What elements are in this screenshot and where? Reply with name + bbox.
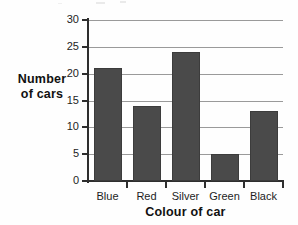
bar-red — [133, 106, 161, 181]
x-axis-tick — [204, 182, 206, 188]
x-axis-tick — [243, 182, 245, 188]
plot-area — [88, 20, 283, 181]
bar-black — [250, 111, 278, 181]
bar-silver — [172, 52, 200, 181]
y-axis-tick-label: 0 — [53, 175, 79, 186]
x-axis-category-label: Silver — [166, 190, 205, 202]
y-axis-tick-label: 15 — [53, 95, 79, 106]
y-axis-tick-label: 20 — [53, 68, 79, 79]
x-axis-tick — [126, 182, 128, 188]
y-axis-tick-label: 10 — [53, 121, 79, 132]
x-axis-title: Colour of car — [88, 205, 283, 219]
y-axis-tick-label: 30 — [53, 14, 79, 25]
bar-chart-figure: Number of cars 051015202530 BlueRedSilve… — [0, 0, 298, 225]
x-axis-category-label: Blue — [88, 190, 127, 202]
x-axis-tick — [282, 182, 284, 188]
y-axis-tick-label: 5 — [53, 148, 79, 159]
scan-artifact — [96, 2, 105, 4]
x-axis-category-label: Green — [205, 190, 244, 202]
scan-artifact — [120, 1, 126, 3]
x-axis-category-label: Red — [127, 190, 166, 202]
scan-artifact — [58, 3, 62, 4]
x-axis-category-label: Black — [244, 190, 283, 202]
y-axis-tick-label: 25 — [53, 41, 79, 52]
bar-blue — [94, 68, 122, 181]
x-axis-tick — [165, 182, 167, 188]
bar-green — [211, 154, 239, 181]
